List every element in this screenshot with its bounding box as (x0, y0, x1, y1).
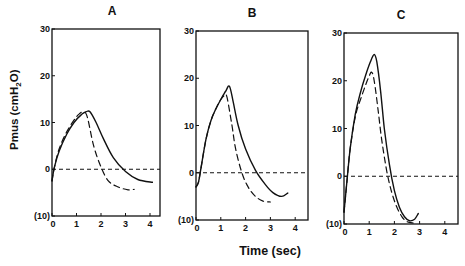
y-tick-label: 20 (332, 76, 342, 86)
x-tick-label: 4 (293, 223, 298, 233)
y-tick-label: 0 (337, 171, 342, 181)
y-tick-label: (10) (326, 219, 342, 229)
panel-c: 3020100(10)01234 (326, 28, 458, 237)
series-dashed-line (196, 94, 270, 202)
y-tick-label: 30 (40, 24, 50, 34)
panel-title-b: B (248, 6, 257, 20)
y-tick-label: 10 (332, 124, 342, 134)
x-tick-label: 3 (268, 223, 273, 233)
x-tick-label: 3 (123, 219, 128, 229)
series-dashed-line (52, 112, 134, 190)
plot-area: 3020100(10)012343020100(10)012343020100(… (0, 0, 465, 266)
y-tick-label: 10 (184, 121, 194, 131)
series-solid-line (196, 86, 288, 197)
series-solid-line (52, 111, 152, 182)
x-tick-label: 2 (392, 227, 397, 237)
x-tick-label: 2 (98, 219, 103, 229)
x-tick-label: 0 (342, 227, 347, 237)
y-axis-label: Pmus (cmH2O) (8, 69, 23, 150)
panel-frame (344, 33, 458, 224)
x-tick-label: 1 (367, 227, 372, 237)
panel-b: 3020100(10)01234 (178, 26, 308, 233)
y-tick-label: 20 (40, 71, 50, 81)
x-tick-label: 4 (147, 219, 152, 229)
x-tick-label: 2 (243, 223, 248, 233)
y-tick-label: 0 (45, 164, 50, 174)
y-tick-label: 30 (332, 28, 342, 38)
series-dashed-line (344, 72, 413, 223)
y-tick-label: 0 (189, 168, 194, 178)
x-axis-label: Time (sec) (239, 244, 301, 258)
x-tick-label: 3 (417, 227, 422, 237)
x-tick-label: 0 (194, 223, 199, 233)
y-tick-label: 10 (40, 118, 50, 128)
panel-title-c: C (397, 8, 406, 22)
panel-a: 3020100(10)01234 (34, 24, 160, 229)
y-tick-label: 20 (184, 73, 194, 83)
y-tick-label: 30 (184, 26, 194, 36)
panel-frame (52, 29, 160, 216)
figure: 3020100(10)012343020100(10)012343020100(… (0, 0, 465, 266)
x-tick-label: 0 (50, 219, 55, 229)
y-tick-label: (10) (178, 215, 194, 225)
x-tick-label: 1 (218, 223, 223, 233)
y-tick-label: (10) (34, 211, 50, 221)
x-tick-label: 4 (442, 227, 447, 237)
x-tick-label: 1 (74, 219, 79, 229)
panel-title-a: A (108, 4, 117, 18)
